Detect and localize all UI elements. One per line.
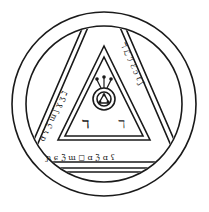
inner-glyph-right: ℸ [118,118,125,131]
inner-glyph-left: ℸ [82,118,89,131]
left-band-text: ɑ ʕ ℨ ɯ ʃ ɣ ʒ ℷ [38,89,70,143]
bottom-band-text: ɲ ɕ ℨ ɯ ◻ ɑ ℨ ɑ ʕ [45,153,115,162]
seal-drawing: ℸ ℸ ɑ ʕ ℨ ɯ ʃ ɣ ʒ ℷ ℸ ℒ ℐ ℰ ɔ ℓ ʃ ɲ ɕ ℨ … [0,0,209,212]
seal-figure: ℸ ℸ ɑ ʕ ℨ ɯ ʃ ɣ ʒ ℷ ℸ ℒ ℐ ℰ ɔ ℓ ʃ ɲ ɕ ℨ … [0,0,209,212]
